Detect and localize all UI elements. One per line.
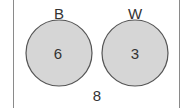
outside-value: 8 [93,88,101,103]
set-w-label: W [128,6,142,21]
set-w-value: 3 [131,46,139,61]
set-b-label: B [54,6,64,21]
set-b-value: 6 [54,46,62,61]
